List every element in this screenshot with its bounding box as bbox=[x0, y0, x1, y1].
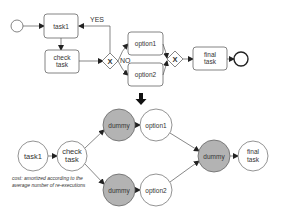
edge-option1-gateway2 bbox=[163, 44, 167, 58]
check-task-node: check task bbox=[45, 50, 79, 73]
b-dummy-bottom-label: dummy bbox=[108, 187, 130, 195]
bottom-diagram: task1 check task dummy option1 dummy opt… bbox=[12, 109, 268, 206]
xor-gateway-1: X bbox=[102, 53, 118, 69]
edge-yes-loop bbox=[79, 26, 110, 53]
option1-node: option1 bbox=[128, 32, 163, 55]
task1-label: task1 bbox=[53, 23, 69, 30]
yes-label: YES bbox=[90, 16, 104, 23]
b-option1-label: option1 bbox=[145, 122, 167, 130]
b-dummy-merge-node: dummy bbox=[198, 140, 230, 172]
option2-label: option2 bbox=[135, 71, 157, 79]
start-event bbox=[11, 20, 23, 32]
b-task1-label: task1 bbox=[24, 152, 42, 161]
b-final-task-line2: task bbox=[247, 156, 260, 163]
end-event bbox=[234, 52, 248, 66]
check-task-label-line2: task bbox=[56, 61, 69, 68]
b-option2-node: option2 bbox=[140, 174, 172, 206]
b-option2-label: option2 bbox=[145, 187, 167, 195]
edge-b-check-dummybottom bbox=[85, 164, 104, 184]
b-check-task-line2: task bbox=[65, 155, 79, 164]
b-final-task-node: final task bbox=[238, 141, 268, 171]
task1-node: task1 bbox=[44, 14, 78, 38]
b-check-task-node: check task bbox=[57, 141, 87, 171]
top-diagram: task1 check task X YES NO option1 bbox=[11, 14, 248, 86]
b-option1-node: option1 bbox=[140, 109, 172, 141]
edge-option2-gateway2 bbox=[163, 61, 167, 75]
final-task-label-line1: final bbox=[204, 51, 216, 58]
gateway1-symbol: X bbox=[107, 57, 112, 66]
b-dummy-merge-label: dummy bbox=[203, 153, 225, 161]
final-task-node: final task bbox=[193, 47, 227, 70]
option1-label: option1 bbox=[135, 40, 157, 48]
b-task1-node: task1 bbox=[18, 141, 48, 171]
edge-b-option2-merge bbox=[170, 161, 199, 182]
diagram-canvas: task1 check task X YES NO option1 bbox=[0, 0, 282, 218]
b-dummy-top-node: dummy bbox=[103, 109, 135, 141]
option2-node: option2 bbox=[128, 63, 163, 86]
caption-line2: average number of re-executions bbox=[12, 182, 86, 188]
edge-b-check-dummytop bbox=[85, 130, 104, 148]
final-task-label-line2: task bbox=[204, 58, 217, 65]
caption-line1: cost: amortized according to the bbox=[12, 175, 83, 181]
b-dummy-bottom-node: dummy bbox=[103, 174, 135, 206]
xor-gateway-2: X bbox=[167, 51, 183, 67]
b-dummy-top-label: dummy bbox=[108, 122, 130, 130]
gateway2-symbol: X bbox=[172, 55, 177, 64]
check-task-label-line1: check bbox=[54, 54, 72, 61]
b-final-task-line1: final bbox=[247, 148, 259, 155]
edge-b-option1-merge bbox=[170, 133, 199, 151]
down-arrow-icon bbox=[136, 93, 147, 105]
